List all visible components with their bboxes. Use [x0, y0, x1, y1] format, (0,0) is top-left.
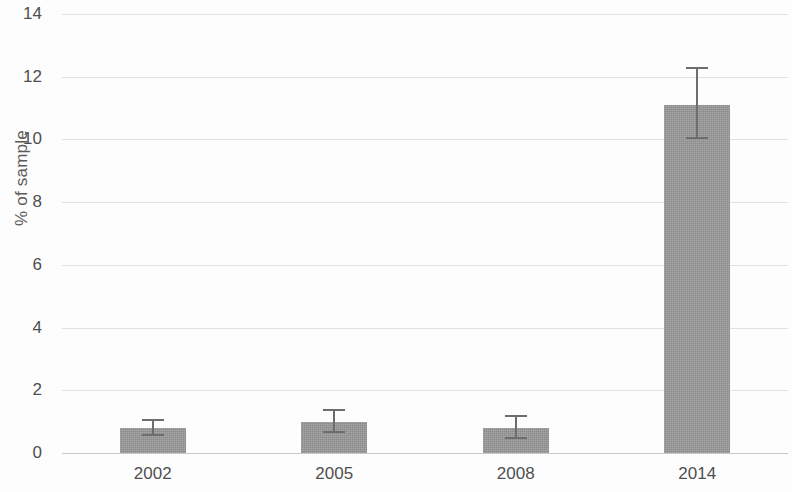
x-tick-label-2008: 2008	[497, 464, 535, 484]
error-bar-cap-top	[505, 415, 527, 417]
gridline-12	[62, 77, 788, 78]
error-bar-line	[515, 415, 517, 439]
error-bar-cap-bottom	[323, 431, 345, 433]
y-tick-label: 14	[0, 4, 42, 24]
error-bar-cap-top	[142, 419, 164, 421]
error-bar-cap-bottom	[505, 437, 527, 439]
error-bar-cap-bottom	[686, 137, 708, 139]
y-tick-label: 0	[0, 443, 42, 463]
error-bar-cap-top	[323, 409, 345, 411]
y-tick-label: 6	[0, 255, 42, 275]
error-bar-cap-bottom	[142, 434, 164, 436]
error-bar-line	[333, 409, 335, 433]
x-tick-label-2002: 2002	[134, 464, 172, 484]
y-tick-label: 8	[0, 192, 42, 212]
gridline-14	[62, 14, 788, 15]
y-tick-label: 4	[0, 318, 42, 338]
x-tick-label-2005: 2005	[315, 464, 353, 484]
plot-area: 02468101214	[62, 14, 788, 453]
x-tick-label-2014: 2014	[678, 464, 716, 484]
error-bar-cap-top	[686, 67, 708, 69]
y-tick-label: 2	[0, 380, 42, 400]
bar-2014	[664, 105, 730, 453]
y-tick-label: 12	[0, 67, 42, 87]
gridline-0	[62, 453, 788, 454]
bar-chart: % of sample 02468101214 2002200520082014	[0, 0, 792, 492]
error-bar-line	[696, 67, 698, 139]
y-tick-label: 10	[0, 129, 42, 149]
